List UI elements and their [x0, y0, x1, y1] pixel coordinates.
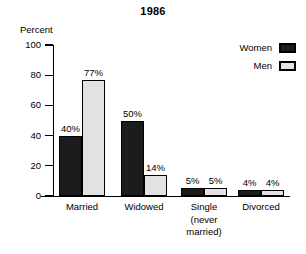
legend-item-women: Women: [196, 40, 296, 55]
chart-legend: Women Men: [196, 40, 296, 76]
bar-value-women-1: 50%: [117, 109, 148, 119]
bar-men-0: [82, 80, 105, 196]
x-axis-line: [41, 196, 290, 197]
legend-label-women: Women: [239, 42, 272, 53]
bar-women-1: [121, 121, 144, 197]
y-axis-title: Percent: [20, 24, 53, 35]
y-tick-label-80: 80: [13, 70, 41, 80]
bar-women-3: [238, 190, 261, 196]
bar-women-2: [181, 188, 204, 196]
bar-men-3: [261, 190, 284, 196]
bar-men-1: [144, 175, 167, 196]
chart-screenshot: 1986 Percent 020406080100 MarriedWidowed…: [0, 0, 306, 254]
y-tick-100: [45, 44, 53, 45]
y-tick-20: [45, 165, 53, 166]
bar-men-2: [204, 188, 227, 196]
bar-value-women-0: 40%: [55, 124, 86, 134]
category-label-3: Divorced: [226, 201, 296, 214]
y-tick-label-0: 0: [13, 191, 41, 201]
bar-value-men-3: 4%: [257, 178, 288, 188]
bar-value-men-0: 77%: [78, 68, 109, 78]
y-tick-80: [45, 75, 53, 76]
category-label-0: Married: [47, 201, 117, 214]
legend-item-men: Men: [196, 58, 296, 73]
bar-value-men-1: 14%: [140, 163, 171, 173]
y-tick-label-20: 20: [13, 161, 41, 171]
chart-title: 1986: [0, 5, 306, 17]
y-tick-label-40: 40: [13, 131, 41, 141]
y-tick-0: [45, 195, 53, 196]
y-tick-label-100: 100: [13, 40, 41, 50]
legend-swatch-women: [279, 43, 296, 53]
y-tick-60: [45, 105, 53, 106]
y-tick-label-60: 60: [13, 100, 41, 110]
legend-swatch-men: [279, 61, 296, 71]
bar-women-0: [59, 136, 82, 196]
legend-label-men: Men: [254, 60, 272, 71]
y-tick-40: [45, 135, 53, 136]
bar-value-men-2: 5%: [200, 176, 231, 186]
